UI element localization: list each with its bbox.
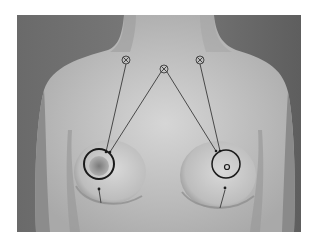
arrow-tip-icon	[98, 188, 101, 191]
left-breast	[74, 140, 146, 204]
left-areola	[89, 156, 109, 176]
annotated-chest-photo	[0, 0, 316, 245]
photo-canvas	[0, 0, 316, 245]
arrow-tip-icon	[215, 150, 218, 153]
arrow-tip-icon	[224, 187, 227, 190]
